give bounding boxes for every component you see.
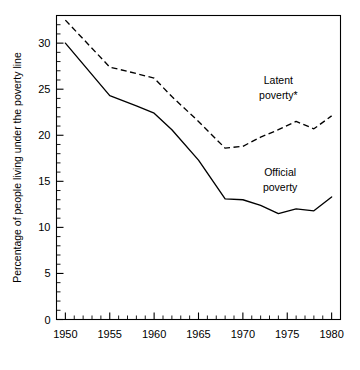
x-tick-label: 1975 xyxy=(275,328,299,340)
x-tick-label: 1970 xyxy=(231,328,255,340)
y-tick-label: 10 xyxy=(38,221,50,233)
y-tick-label: 0 xyxy=(44,314,50,326)
y-tick-label: 25 xyxy=(38,83,50,95)
series-label: Latent xyxy=(264,74,293,86)
y-axis-title-text: Percentage of people living under the po… xyxy=(11,52,23,283)
y-axis-tick-labels: 051015202530 xyxy=(38,37,50,325)
series-label: poverty* xyxy=(259,89,298,101)
x-tick-label: 1955 xyxy=(98,328,122,340)
series-label: poverty xyxy=(263,181,298,193)
y-tick-label: 30 xyxy=(38,37,50,49)
series-label: Official xyxy=(264,166,296,178)
plot-frame xyxy=(57,16,341,320)
y-tick-label: 20 xyxy=(38,129,50,141)
poverty-line-chart: 1950195519601965197019751980 05101520253… xyxy=(0,0,360,370)
y-tick-label: 15 xyxy=(38,175,50,187)
y-axis-title: Percentage of people living under the po… xyxy=(11,52,23,283)
series-annotations: Latentpoverty*Officialpoverty xyxy=(259,74,298,194)
x-tick-label: 1950 xyxy=(53,328,77,340)
chart-canvas: 1950195519601965197019751980 05101520253… xyxy=(0,0,360,370)
x-tick-label: 1960 xyxy=(142,328,166,340)
x-tick-label: 1965 xyxy=(186,328,210,340)
x-axis-tick-labels: 1950195519601965197019751980 xyxy=(53,328,344,340)
y-tick-label: 5 xyxy=(44,267,50,279)
axis-ticks xyxy=(57,16,341,320)
x-tick-label: 1980 xyxy=(319,328,343,340)
plot-border xyxy=(57,16,341,320)
